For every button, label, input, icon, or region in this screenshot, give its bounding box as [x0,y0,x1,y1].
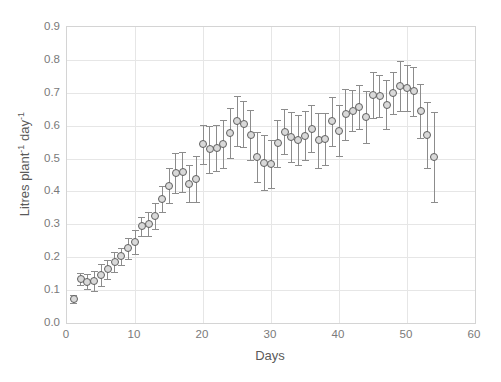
error-bar-cap-lower [349,131,356,132]
data-point-marker [308,125,316,133]
error-bar-cap-upper [431,112,438,113]
y-tick-label: 0.9 [30,20,60,32]
data-point-marker [321,135,329,143]
error-bar-cap-upper [152,203,159,204]
data-point-marker [165,182,173,190]
x-tick-label: 50 [400,328,413,340]
error-bar-cap-upper [213,125,220,126]
error-bar-cap-lower [91,291,98,292]
error-bar-cap-lower [98,286,105,287]
error-bar-cap-lower [111,272,118,273]
data-point-marker [417,107,425,115]
data-point-marker [301,132,309,140]
error-bar-cap-upper [247,110,254,111]
error-bar-cap-upper [179,152,186,153]
error-bar-cap-lower [336,156,343,157]
error-bar-cap-upper [288,112,295,113]
evapotranspiration-chart: Evapotranspiration of cannabis (bloom) 0… [0,0,501,382]
error-bar-cap-upper [138,217,145,218]
data-point-marker [192,175,200,183]
data-point-marker [226,129,234,137]
data-point-marker [423,131,431,139]
error-bar-cap-upper [336,105,343,106]
x-tick-label: 60 [468,328,481,340]
x-tick-label: 10 [128,328,141,340]
error-bar-cap-lower [383,129,390,130]
y-tick-label: 0.7 [30,86,60,98]
error-bar-cap-lower [200,164,207,165]
data-point-marker [90,277,98,285]
error-bar-cap-lower [84,289,91,290]
x-tick-label: 30 [264,328,277,340]
error-bar-cap-lower [370,118,377,119]
data-point-marker [145,220,153,228]
error-bar-cap-lower [145,236,152,237]
error-bar-cap-lower [295,165,302,166]
error-bar-cap-upper [274,120,281,121]
error-bar-cap-lower [77,285,84,286]
x-axis-title: Days [66,348,474,363]
data-point-marker [355,103,363,111]
y-tick-label: 0.2 [30,250,60,262]
error-bar-cap-upper [193,156,200,157]
y-tick-label: 0.0 [30,316,60,328]
plot-area [66,26,476,324]
error-bar-cap-lower [220,168,227,169]
error-bar-cap-upper [383,80,390,81]
error-bar-cap-upper [322,113,329,114]
error-bar-cap-lower [104,279,111,280]
error-bar-cap-lower [315,168,322,169]
error-bar-cap-upper [295,115,302,116]
error-bar-cap-lower [356,129,363,130]
data-point-marker [158,195,166,203]
error-bar-cap-lower [227,158,234,159]
error-bar-cap-lower [172,193,179,194]
y-tick-label: 0.5 [30,152,60,164]
error-bar-cap-lower [431,202,438,203]
error-bar-cap-lower [288,162,295,163]
error-bar-cap-upper [376,75,383,76]
error-bar-cap-lower [166,203,173,204]
data-point-marker [389,89,397,97]
data-point-marker [410,87,418,95]
error-bar-cap-lower [159,212,166,213]
error-bar-cap-lower [213,171,220,172]
error-bar-cap-lower [193,202,200,203]
error-bar-cap-lower [417,138,424,139]
error-bar-cap-upper [254,132,261,133]
data-point-marker [70,295,78,303]
error-bar-cap-upper [424,102,431,103]
data-point-marker [219,140,227,148]
error-bar-cap-lower [132,254,139,255]
error-bar-cap-upper [84,274,91,275]
y-tick-label: 0.6 [30,119,60,131]
error-bar-cap-upper [186,165,193,166]
data-point-marker [240,120,248,128]
y-tick-label: 0.1 [30,283,60,295]
error-bar-cap-upper [125,238,132,239]
y-tick-label: 0.8 [30,53,60,65]
x-tick-label: 40 [332,328,345,340]
error-bar-cap-upper [220,120,227,121]
error-bar-cap-upper [166,168,173,169]
x-axis-tick-labels: 0102030405060 [66,328,474,344]
error-bar-cap-lower [125,259,132,260]
error-bar-cap-lower [329,146,336,147]
error-bar-cap-upper [363,91,370,92]
error-bar-cap-lower [268,188,275,189]
error-bar-cap-lower [118,265,125,266]
data-point-marker [376,92,384,100]
data-point-marker [131,238,139,246]
error-bar-cap-upper [329,97,336,98]
x-tick-label: 0 [63,328,69,340]
data-point-marker [124,244,132,252]
error-bar-cap-lower [390,114,397,115]
error-bar-cap-upper [132,230,139,231]
error-bar-cap-upper [370,72,377,73]
y-axis-title: Litres plant-1 day-1 [16,54,32,274]
error-bar-cap-lower [281,154,288,155]
error-bar-cap-lower [308,152,315,153]
error-bar-cap-lower [404,111,411,112]
error-bar-cap-lower [247,160,254,161]
error-bar-cap-lower [254,182,261,183]
